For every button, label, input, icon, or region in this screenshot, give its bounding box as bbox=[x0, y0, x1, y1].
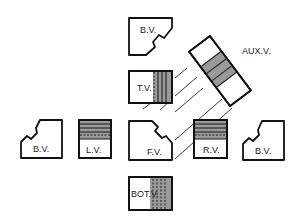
top-back-view-label: B.V. bbox=[140, 25, 156, 35]
front-view-label: F.V. bbox=[147, 147, 162, 157]
top-view-label: T.V. bbox=[137, 83, 152, 93]
bottom-view-label: BOT.V. bbox=[131, 189, 159, 199]
right-view-label: R.V. bbox=[203, 145, 220, 155]
left-back-view: B.V. bbox=[21, 120, 62, 158]
left-view: L.V. bbox=[79, 120, 111, 158]
right-back-view-label: B.V. bbox=[255, 146, 271, 156]
front-view: F.V. bbox=[129, 121, 172, 160]
left-back-view-label: B.V. bbox=[33, 144, 49, 154]
right-back-view: B.V. bbox=[243, 121, 284, 160]
auxiliary-view: AUX.V. bbox=[189, 36, 271, 106]
projection-diagram: B.V. T.V. F.V. BOT.V. L.V. bbox=[0, 0, 299, 223]
auxiliary-view-label: AUX.V. bbox=[242, 46, 271, 56]
left-view-label: L.V. bbox=[86, 145, 101, 155]
top-back-view: B.V. bbox=[129, 18, 172, 55]
bottom-view: BOT.V. bbox=[129, 177, 172, 210]
top-view: T.V. bbox=[129, 71, 172, 103]
right-view: R.V. bbox=[194, 120, 227, 158]
